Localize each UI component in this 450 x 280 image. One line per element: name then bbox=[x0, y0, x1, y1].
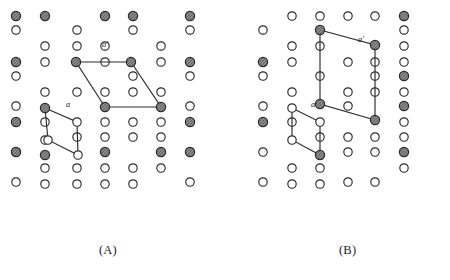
lattice-site-shaded bbox=[11, 147, 20, 156]
lattice-site-open bbox=[41, 42, 49, 50]
lattice-site-open bbox=[371, 12, 379, 20]
cell-vertex-shaded bbox=[370, 40, 379, 49]
lattice-site-shaded bbox=[185, 117, 194, 126]
lattice-site-shaded bbox=[258, 57, 267, 66]
lattice-site-open bbox=[400, 42, 408, 50]
cell-vertex-open bbox=[316, 118, 324, 126]
lattice-site-open bbox=[101, 88, 109, 96]
cell-vertex-shaded bbox=[315, 150, 324, 159]
lattice-site-open bbox=[73, 26, 81, 34]
lattice-site-shaded bbox=[399, 11, 408, 20]
lattice-site-open bbox=[316, 180, 324, 188]
lattice-site-open bbox=[41, 164, 49, 172]
lattice-site-open bbox=[73, 164, 81, 172]
lattice-site-open bbox=[259, 72, 267, 80]
lattice-site-open bbox=[371, 148, 379, 156]
lattice-site-open bbox=[186, 178, 194, 186]
lattice-site-open bbox=[73, 42, 81, 50]
vector-label-a: a bbox=[311, 99, 315, 109]
lattice-site-open bbox=[41, 118, 49, 126]
lattice-site-open bbox=[316, 164, 324, 172]
lattice-site-open bbox=[157, 58, 165, 66]
lattice-site-open bbox=[12, 178, 20, 186]
lattice-site-open bbox=[259, 178, 267, 186]
lattice-site-open bbox=[129, 26, 137, 34]
figure-background bbox=[0, 0, 450, 280]
cell-vertex-open bbox=[288, 104, 296, 112]
lattice-site-open bbox=[157, 133, 165, 141]
lattice-site-open bbox=[12, 26, 20, 34]
lattice-site-open bbox=[400, 118, 408, 126]
lattice-site-shaded bbox=[258, 117, 267, 126]
lattice-site-open bbox=[288, 88, 296, 96]
vector-label-a-prime: a' bbox=[358, 34, 364, 44]
lattice-figure: aa' aa' bbox=[0, 0, 450, 280]
lattice-site-open bbox=[73, 88, 81, 96]
lattice-site-open bbox=[400, 26, 408, 34]
lattice-site-open bbox=[371, 133, 379, 141]
lattice-site-open bbox=[400, 133, 408, 141]
lattice-site-shaded bbox=[11, 11, 20, 20]
lattice-site-open bbox=[344, 12, 352, 20]
lattice-site-open bbox=[288, 58, 296, 66]
lattice-site-open bbox=[344, 178, 352, 186]
lattice-site-shaded bbox=[399, 71, 408, 80]
lattice-site-open bbox=[73, 180, 81, 188]
lattice-site-open bbox=[259, 26, 267, 34]
lattice-site-open bbox=[41, 180, 49, 188]
lattice-site-open bbox=[129, 180, 137, 188]
lattice-site-open bbox=[129, 133, 137, 141]
panel-b-caption: (B) bbox=[339, 243, 356, 258]
lattice-site-open bbox=[157, 88, 165, 96]
lattice-site-shaded bbox=[11, 117, 20, 126]
lattice-site-open bbox=[288, 42, 296, 50]
cell-vertex-shaded bbox=[40, 103, 49, 112]
lattice-site-shaded bbox=[40, 150, 49, 159]
lattice-site-shaded bbox=[185, 57, 194, 66]
lattice-site-open bbox=[371, 178, 379, 186]
lattice-site-open bbox=[186, 26, 194, 34]
lattice-site-shaded bbox=[11, 57, 20, 66]
cell-vertex-shaded bbox=[315, 99, 324, 108]
lattice-site-shaded bbox=[156, 147, 165, 156]
lattice-site-open bbox=[186, 102, 194, 110]
lattice-site-shaded bbox=[128, 11, 137, 20]
lattice-site-shaded bbox=[40, 11, 49, 20]
cell-vertex-open bbox=[73, 118, 81, 126]
lattice-site-open bbox=[101, 118, 109, 126]
lattice-site-shaded bbox=[185, 147, 194, 156]
lattice-site-open bbox=[344, 58, 352, 66]
cell-vertex-shaded bbox=[100, 102, 109, 111]
lattice-site-open bbox=[259, 148, 267, 156]
lattice-site-shaded bbox=[100, 147, 109, 156]
lattice-site-open bbox=[288, 180, 296, 188]
cell-vertex-shaded bbox=[315, 25, 324, 34]
lattice-site-open bbox=[129, 72, 137, 80]
lattice-site-open bbox=[41, 58, 49, 66]
lattice-site-open bbox=[157, 164, 165, 172]
lattice-site-shaded bbox=[399, 147, 408, 156]
vector-label-a-prime: a' bbox=[102, 39, 108, 49]
lattice-site-shaded bbox=[399, 101, 408, 110]
lattice-site-open bbox=[129, 164, 137, 172]
lattice-site-open bbox=[157, 118, 165, 126]
lattice-site-open bbox=[344, 102, 352, 110]
lattice-site-open bbox=[129, 88, 137, 96]
cell-vertex-shaded bbox=[370, 115, 379, 124]
cell-vertex-shaded bbox=[126, 57, 135, 66]
cell-vertex-shaded bbox=[71, 57, 80, 66]
cell-vertex-open bbox=[74, 151, 82, 159]
lattice-site-open bbox=[101, 164, 109, 172]
lattice-site-open bbox=[41, 88, 49, 96]
lattice-site-open bbox=[12, 72, 20, 80]
lattice-site-open bbox=[259, 102, 267, 110]
panel-a-caption: (A) bbox=[99, 243, 117, 258]
lattice-site-open bbox=[344, 133, 352, 141]
lattice-site-open bbox=[288, 12, 296, 20]
lattice-site-shaded bbox=[185, 11, 194, 20]
lattice-site-open bbox=[186, 72, 194, 80]
lattice-site-open bbox=[157, 42, 165, 50]
lattice-site-open bbox=[12, 102, 20, 110]
lattice-site-open bbox=[316, 12, 324, 20]
lattice-site-open bbox=[344, 88, 352, 96]
